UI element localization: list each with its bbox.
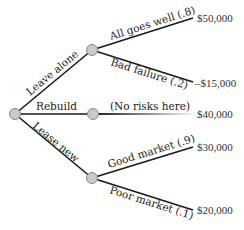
label-leave-alone: Leave alone xyxy=(24,48,81,98)
value-all-goes-well: $50,000 xyxy=(197,12,233,24)
value-poor-market: $20,000 xyxy=(197,204,233,216)
value-no-risks: $40,000 xyxy=(197,108,233,120)
chance-node-leave-alone xyxy=(87,45,98,56)
label-lease-new: Lease new xyxy=(31,119,82,164)
label-no-risks: (No risks here) xyxy=(110,100,190,112)
value-good-market: $30,000 xyxy=(197,141,233,153)
chance-node-rebuild xyxy=(88,109,99,120)
decision-tree: Leave alone Rebuild Lease new All goes w… xyxy=(0,0,244,230)
label-poor-market: Poor market (.1) xyxy=(108,183,195,221)
value-bad-failure: –$15,000 xyxy=(194,77,237,89)
label-rebuild: Rebuild xyxy=(36,100,77,112)
label-bad-failure: Bad failure (.2) xyxy=(109,55,189,91)
root-node xyxy=(10,109,21,120)
label-all-goes-well: All goes well (.8) xyxy=(107,4,197,43)
chance-node-lease-new xyxy=(87,173,98,184)
